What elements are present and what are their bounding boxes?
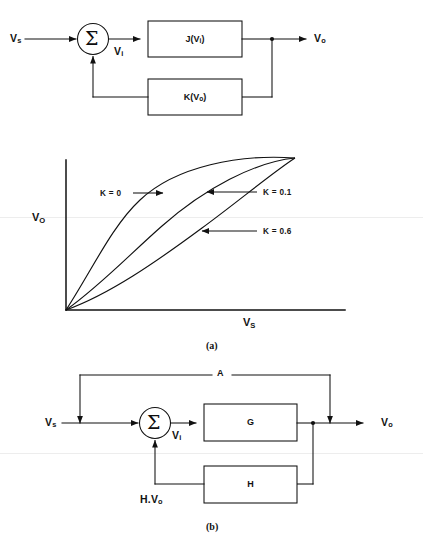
figure-container: Vs Σ Vi J(Vi) K(Vo) Vo VO VS K = 0 K = 0… <box>0 0 423 546</box>
top-output-label: Vo <box>314 33 326 45</box>
caption-b: (b) <box>206 521 218 532</box>
chart-y-axis-label: VO <box>32 211 45 225</box>
bottom-input-label: Vs <box>45 417 57 429</box>
bottom-feedback-block-label: H <box>204 480 297 489</box>
caption-a: (a) <box>206 340 218 351</box>
bottom-output-label: Vo <box>381 417 393 429</box>
feedback-signal-label: H.Vo <box>140 494 163 506</box>
top-feedback-block-label: K(Vo) <box>148 93 242 103</box>
chart-annotation-k0: K = 0 <box>100 189 121 198</box>
chart-annotation-k01: K = 0.1 <box>263 188 292 197</box>
bottom-forward-block-label: G <box>204 418 297 427</box>
chart-x-axis-label: VS <box>243 316 255 330</box>
top-forward-block-label: J(Vi) <box>148 35 242 45</box>
figure-linework <box>0 0 423 546</box>
bottom-error-label: Vi <box>172 430 181 442</box>
top-error-label: Vi <box>114 46 123 58</box>
bottom-summer-sigma: Σ <box>147 413 160 432</box>
feedforward-path-label: A <box>217 369 224 378</box>
top-summer-sigma: Σ <box>85 29 98 48</box>
chart-annotation-k06: K = 0.6 <box>263 227 292 236</box>
top-input-label: Vs <box>10 33 22 45</box>
